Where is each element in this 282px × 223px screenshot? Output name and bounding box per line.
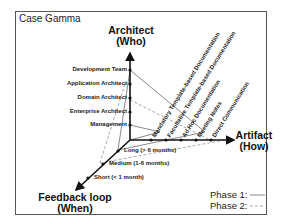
architect-axis-subtitle: (Who) <box>106 36 156 47</box>
architect-tick: Enterprise Architect <box>70 108 127 114</box>
architect-tick: Domain Architect <box>78 94 127 100</box>
architect-tick: Management <box>90 121 127 127</box>
phase1-lines <box>118 70 205 150</box>
artifact-axis-label: Artifact (How) <box>232 130 276 152</box>
legend-phase2: Phase 2: <box>210 200 248 211</box>
architect-tick: Development Team <box>72 66 127 72</box>
architect-axis-label: Architect (Who) <box>106 25 156 47</box>
feedback-tick: Medium (1-6 months) <box>109 160 169 166</box>
feedback-tick: Long (> 6 months) <box>124 147 176 153</box>
artifact-axis-subtitle: (How) <box>232 141 276 152</box>
feedback-axis-subtitle: (When) <box>30 203 120 214</box>
architect-tick: Application Architect <box>67 80 127 86</box>
feedback-tick: Short (< 1 month) <box>94 174 144 180</box>
legend-phase1: Phase 1: <box>210 189 248 200</box>
diagram-title: Case Gamma <box>19 13 81 24</box>
feedback-axis-label: Feedback loop (When) <box>30 192 120 214</box>
